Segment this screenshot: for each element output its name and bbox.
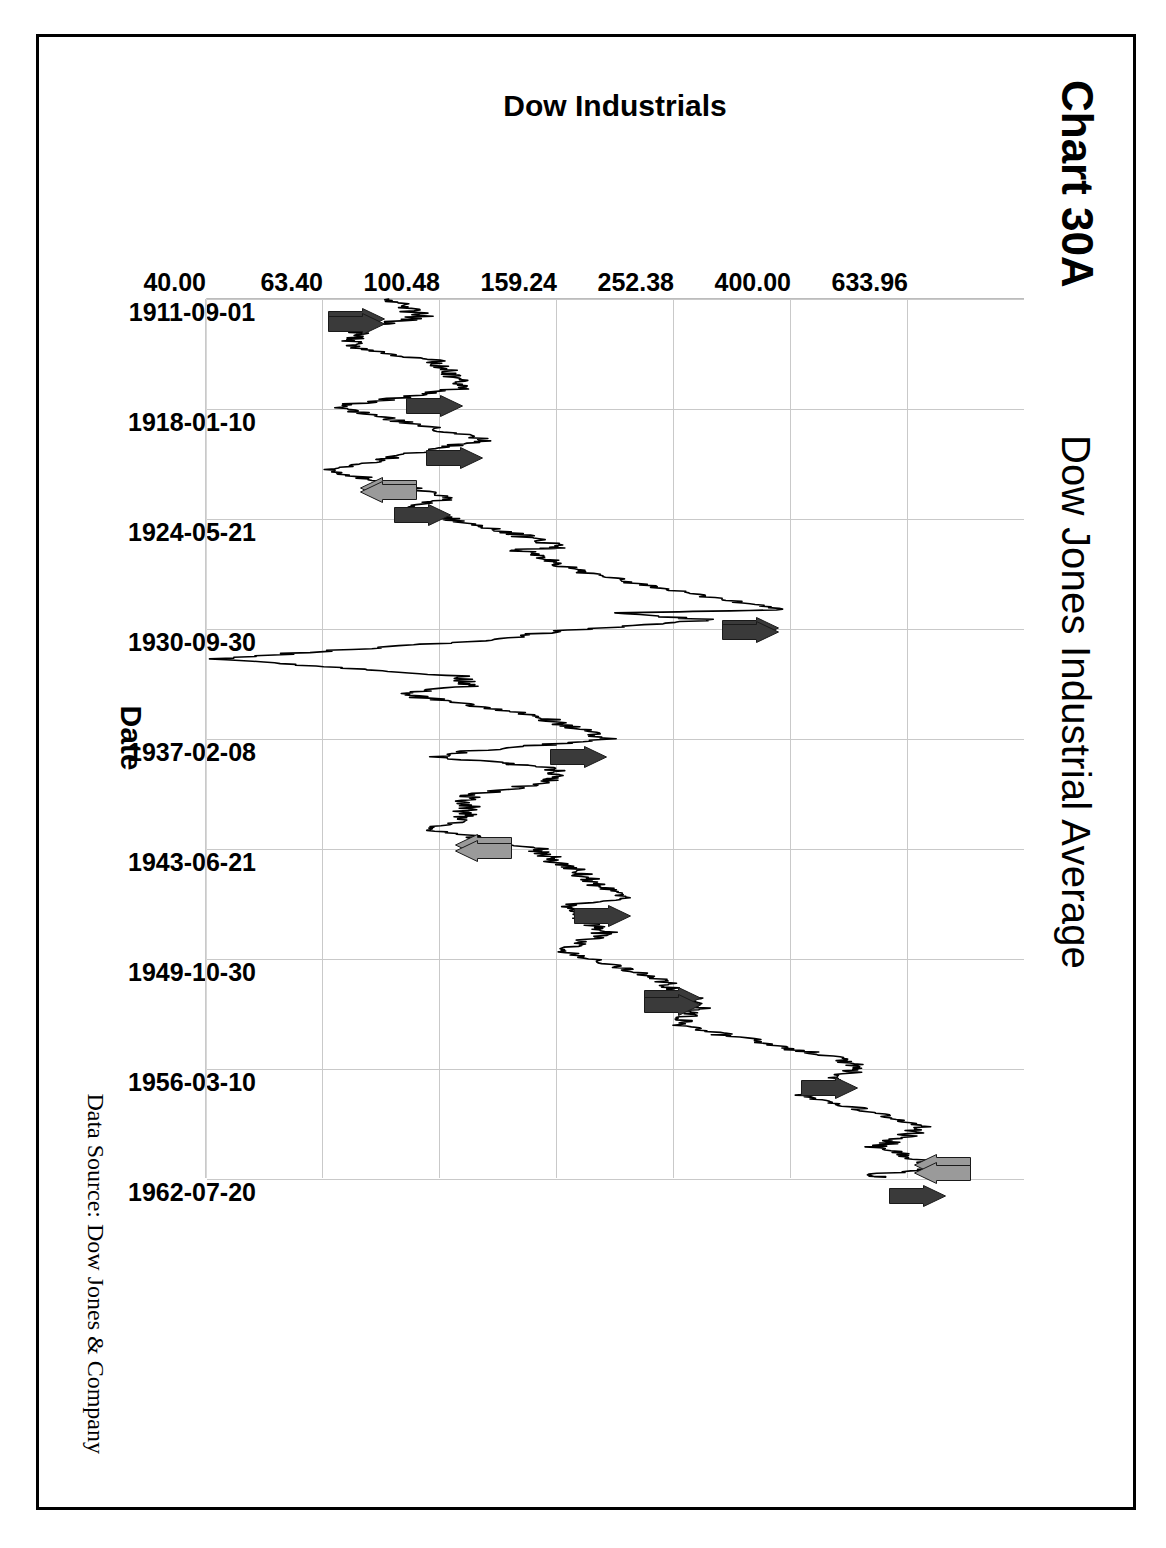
y-tick-label-252.38: 252.38 bbox=[598, 268, 674, 297]
y-tick-label-633.96: 633.96 bbox=[832, 268, 908, 297]
page-title: Dow Jones Industrial Average bbox=[1053, 272, 1098, 1132]
peak-marker-arrow-12 bbox=[575, 906, 631, 927]
y-tick-label-159.24: 159.24 bbox=[481, 268, 557, 297]
rotated-chart-stage: Chart 30A Dow Jones Industrial Average D… bbox=[56, 62, 1116, 1482]
y-tick-label-40.00: 40.00 bbox=[143, 268, 206, 297]
series-polyline bbox=[209, 299, 957, 1177]
gridline-vertical-8 bbox=[207, 1179, 1024, 1180]
chart-number-label: Chart 30A bbox=[1052, 80, 1102, 288]
peak-marker-arrow-18 bbox=[889, 1185, 945, 1206]
x-tick-label-1962-07-20: 1962-07-20 bbox=[128, 1178, 256, 1207]
peak-marker-arrow-3 bbox=[427, 447, 483, 468]
trough-marker-arrow-5 bbox=[361, 482, 417, 503]
plot-area bbox=[206, 298, 1024, 1178]
peak-marker-arrow-8 bbox=[722, 622, 778, 643]
trough-marker-arrow-17 bbox=[915, 1162, 971, 1183]
trough-marker-arrow-11 bbox=[456, 841, 512, 862]
peak-marker-arrow-2 bbox=[407, 395, 463, 416]
figure-border: Chart 30A Dow Jones Industrial Average D… bbox=[36, 34, 1136, 1510]
peak-marker-arrow-15 bbox=[802, 1077, 858, 1098]
peak-marker-arrow-9 bbox=[551, 747, 607, 768]
peak-marker-arrow-6 bbox=[395, 505, 451, 526]
y-tick-label-63.40: 63.40 bbox=[260, 268, 323, 297]
peak-marker-arrow-14 bbox=[644, 995, 700, 1016]
y-tick-label-100.48: 100.48 bbox=[364, 268, 440, 297]
y-axis-title: Dow Industrials bbox=[503, 89, 726, 123]
gridline-horizontal-6 bbox=[205, 299, 206, 1178]
y-tick-label-400.00: 400.00 bbox=[715, 268, 791, 297]
data-source-note: Data Source: Dow Jones & Company bbox=[82, 1093, 109, 1454]
data-series-dow-industrials bbox=[207, 299, 1024, 1178]
peak-marker-arrow-1 bbox=[329, 313, 385, 334]
